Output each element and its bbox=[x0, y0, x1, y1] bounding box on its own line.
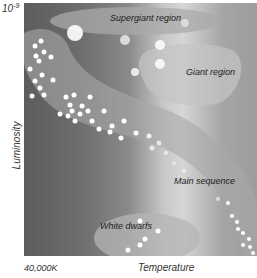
x-axis-label: Temperature bbox=[138, 262, 194, 273]
y-axis-label: Luminosity bbox=[11, 116, 22, 176]
x-axis-min-label: 40,000K bbox=[24, 263, 58, 273]
white-dwarfs-region bbox=[94, 213, 200, 256]
giant-region-label: Giant region bbox=[186, 67, 235, 77]
main-sequence-label: Main sequence bbox=[174, 176, 235, 186]
diagram-shapes bbox=[24, 3, 257, 256]
hr-diagram-plot: Supergiant region Giant region Main sequ… bbox=[24, 3, 257, 256]
white-dwarfs-label: White dwarfs bbox=[100, 221, 152, 231]
supergiant-region-label: Supergiant region bbox=[110, 13, 181, 23]
y-axis-max-label: 10-9 bbox=[2, 2, 19, 14]
